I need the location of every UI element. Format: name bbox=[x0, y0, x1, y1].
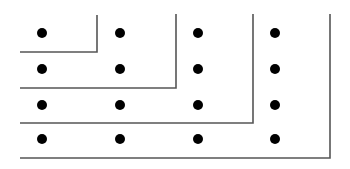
dot-r3-c4 bbox=[270, 100, 280, 110]
dot-r3-c3 bbox=[193, 100, 203, 110]
dot-r1-c1 bbox=[37, 28, 47, 38]
dot-r4-c3 bbox=[193, 134, 203, 144]
gnomon-line-3 bbox=[20, 14, 253, 123]
dot-r4-c4 bbox=[270, 134, 280, 144]
dot-grid-diagram bbox=[0, 0, 350, 169]
dot-grid bbox=[37, 28, 280, 144]
dot-r2-c4 bbox=[270, 64, 280, 74]
dot-r2-c3 bbox=[193, 64, 203, 74]
gnomon-line-2 bbox=[20, 14, 176, 88]
gnomon-line-4 bbox=[20, 14, 330, 158]
gnomon-lines bbox=[20, 14, 330, 158]
dot-r2-c1 bbox=[37, 64, 47, 74]
diagram-svg bbox=[0, 0, 350, 169]
dot-r1-c2 bbox=[115, 28, 125, 38]
dot-r2-c2 bbox=[115, 64, 125, 74]
dot-r3-c1 bbox=[37, 100, 47, 110]
gnomon-line-1 bbox=[20, 15, 97, 52]
dot-r4-c2 bbox=[115, 134, 125, 144]
dot-r1-c4 bbox=[270, 28, 280, 38]
dot-r3-c2 bbox=[115, 100, 125, 110]
dot-r4-c1 bbox=[37, 134, 47, 144]
dot-r1-c3 bbox=[193, 28, 203, 38]
